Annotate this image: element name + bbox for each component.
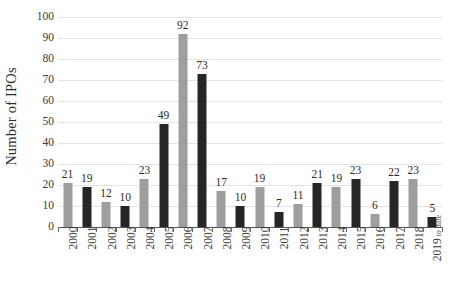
bar-slot: 23 [135, 17, 154, 227]
x-axis-tick [58, 227, 59, 232]
bar-slot: 22 [384, 17, 403, 227]
bar-value-label: 10 [235, 192, 247, 204]
bar[interactable] [159, 124, 168, 227]
bar-value-label: 22 [388, 167, 400, 179]
bar[interactable] [370, 214, 379, 227]
bar-value-label: 23 [139, 165, 151, 177]
bar-value-label: 19 [331, 173, 343, 185]
y-axis-tick-label: 50 [43, 116, 55, 128]
bar[interactable] [409, 179, 418, 227]
bar[interactable] [332, 187, 341, 227]
bar-value-label: 92 [177, 20, 189, 32]
bar[interactable] [351, 179, 360, 227]
bar[interactable] [82, 187, 91, 227]
bar-value-label: 19 [81, 173, 93, 185]
bar-value-label: 17 [215, 177, 227, 189]
bar-slot: 12 [96, 17, 115, 227]
y-axis-tick-label: 100 [37, 11, 54, 23]
bar[interactable] [121, 206, 130, 227]
bar-slot: 19 [250, 17, 269, 227]
bar-slot: 5 [423, 17, 442, 227]
y-axis-tick-label: 60 [43, 95, 55, 107]
x-axis-label-year: 2019 [431, 238, 443, 261]
bar-value-label: 23 [350, 165, 362, 177]
bar-value-label: 5 [430, 203, 436, 215]
bar-value-label: 6 [372, 200, 378, 212]
bar-slot: 21 [308, 17, 327, 227]
y-axis-tick-label: 10 [43, 200, 55, 212]
bar[interactable] [313, 183, 322, 227]
bar-slot: 23 [346, 17, 365, 227]
x-axis-labels: 2000200120022003200420052006200720082009… [58, 233, 442, 303]
bar-value-label: 7 [276, 198, 282, 210]
x-axis-label-suffix: to date [434, 215, 443, 239]
bar-value-label: 19 [254, 173, 266, 185]
bar[interactable] [255, 187, 264, 227]
bar-value-label: 10 [119, 192, 131, 204]
y-axis-tick-label: 80 [43, 53, 55, 65]
bar[interactable] [293, 204, 302, 227]
bar[interactable] [178, 34, 187, 227]
x-axis-label-text: 2019 to date [432, 215, 444, 262]
bar-slot: 10 [231, 17, 250, 227]
bar-slot: 23 [404, 17, 423, 227]
y-axis-tick-label: 0 [48, 221, 54, 233]
y-axis-tick-label: 90 [43, 32, 55, 44]
y-axis-tick-label: 70 [43, 74, 55, 86]
bar[interactable] [236, 206, 245, 227]
y-axis-title: Number of IPOs [0, 0, 22, 232]
bar-slot: 19 [77, 17, 96, 227]
bar-value-label: 49 [158, 110, 170, 122]
bar-slot: 92 [173, 17, 192, 227]
bar-slot: 7 [269, 17, 288, 227]
bar-value-label: 23 [407, 165, 419, 177]
bar-slot: 10 [116, 17, 135, 227]
bar[interactable] [389, 181, 398, 227]
bar-slot: 19 [327, 17, 346, 227]
bar-value-label: 21 [311, 169, 323, 181]
bar[interactable] [274, 212, 283, 227]
bar-chart: Number of IPOs 0102030405060708090100 21… [0, 0, 450, 304]
x-axis-label: 2019 to date [397, 233, 450, 251]
y-axis-tick-label: 40 [43, 137, 55, 149]
bar[interactable] [63, 183, 72, 227]
y-axis-tick-label: 20 [43, 179, 55, 191]
bar-slot: 73 [192, 17, 211, 227]
bar-value-label: 12 [100, 188, 112, 200]
bar[interactable] [140, 179, 149, 227]
bar[interactable] [197, 74, 206, 227]
bar-value-label: 21 [62, 169, 74, 181]
bar-slot: 17 [212, 17, 231, 227]
bar-slot: 21 [58, 17, 77, 227]
bar[interactable] [101, 202, 110, 227]
bars: 2119121023499273171019711211923622235 [58, 17, 442, 227]
bar-value-label: 11 [292, 190, 303, 202]
bar-slot: 6 [365, 17, 384, 227]
plot-area: 2119121023499273171019711211923622235 [58, 17, 442, 227]
bar[interactable] [217, 191, 226, 227]
bar-slot: 11 [288, 17, 307, 227]
bar-slot: 49 [154, 17, 173, 227]
y-axis-tick-label: 30 [43, 158, 55, 170]
y-axis-title-text: Number of IPOs [3, 67, 20, 166]
y-axis-tick-labels: 0102030405060708090100 [20, 10, 56, 228]
bar-value-label: 73 [196, 60, 208, 72]
